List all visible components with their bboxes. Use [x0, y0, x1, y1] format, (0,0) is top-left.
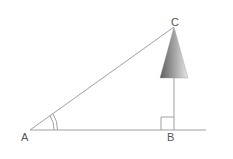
label-a: A: [21, 131, 29, 143]
label-b: B: [167, 131, 174, 143]
diagram-canvas: A B C: [0, 0, 233, 159]
angle-arc-inner: [50, 116, 54, 130]
right-angle-marker: [161, 117, 174, 130]
angle-arc-outer: [53, 114, 58, 130]
hypotenuse-ac: [30, 27, 174, 130]
label-c: C: [171, 16, 179, 28]
tree-shape: [160, 27, 188, 78]
triangle-diagram: A B C: [0, 0, 233, 159]
